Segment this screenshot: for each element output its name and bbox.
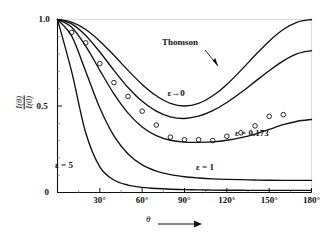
x-tick-label-60: 60°: [136, 196, 149, 205]
annotation-epsilon-1: ε = 1: [196, 163, 214, 172]
x-tick-label-180: 180°: [303, 196, 320, 205]
annotation-epsilon-0173: ε = 0.173: [235, 129, 269, 138]
y-axis-denominator: I(0): [24, 95, 33, 110]
annotation-arrows: [205, 50, 218, 66]
x-tick-label-30: 30°: [93, 196, 106, 205]
data-point-circle: [154, 123, 159, 128]
annotation-epsilon-to-zero: ε→0: [168, 89, 185, 98]
y-tick-label-0: 0: [45, 188, 50, 197]
y-tick-label-1: 1.0: [39, 15, 50, 24]
data-point-circle: [98, 61, 103, 66]
curve-epsilon-to-zero: [58, 20, 312, 119]
annotation-epsilon-5: ε = 5: [55, 161, 73, 170]
x-tick-label-90: 90°: [178, 196, 191, 205]
scatter-plot-svg: [0, 0, 332, 238]
data-point-circle: [126, 94, 131, 99]
data-point-circle: [267, 114, 272, 119]
y-tick-label-0point5: 0.5: [37, 102, 48, 111]
x-axis-arrow-icon: [158, 219, 202, 229]
data-point-circle: [140, 109, 145, 114]
data-point-circle: [182, 137, 187, 142]
x-axis-label: θ: [146, 214, 150, 224]
data-point-circle: [196, 137, 201, 142]
data-point-circle: [168, 135, 173, 140]
figure-canvas: 1.0 0.5 0 30° 60° 90° 120° 150° 180° I(θ…: [0, 0, 332, 238]
y-axis-label: I(θ) I(0): [15, 79, 36, 125]
data-point-circle: [281, 112, 286, 117]
y-axis-fraction: I(θ) I(0): [15, 95, 33, 110]
annotation-thomson: Thomson: [162, 38, 198, 47]
x-tick-label-150: 150°: [261, 196, 278, 205]
data-points: [69, 30, 285, 143]
data-point-circle: [225, 134, 230, 139]
data-point-circle: [112, 80, 117, 85]
x-tick-label-120: 120°: [218, 196, 235, 205]
